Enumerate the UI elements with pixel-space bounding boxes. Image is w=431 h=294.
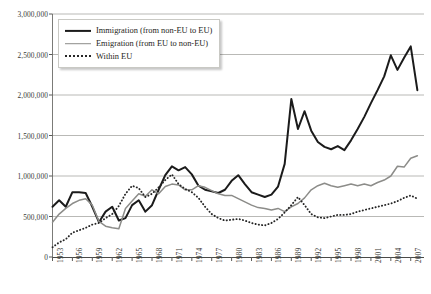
x-tick-label: 1974 [195, 248, 204, 263]
legend-item-within-eu: Within EU [65, 50, 212, 63]
migration-line-chart: 0500,0001,000,0001,500,0002,000,0002,500… [0, 0, 431, 294]
legend-label-immigration: Immigration (from non-EU to EU) [96, 25, 212, 36]
x-tick-label: 1956 [75, 248, 84, 263]
x-tick-label: 1986 [274, 248, 283, 263]
x-tick-label: 1968 [155, 248, 164, 263]
x-tick-label: 1965 [135, 248, 144, 263]
legend-item-immigration: Immigration (from non-EU to EU) [65, 24, 212, 37]
legend-swatch-within-eu-icon [65, 52, 91, 62]
x-tick-label: 1977 [215, 248, 224, 263]
x-tick-label: 1983 [255, 248, 264, 263]
x-tick-label: 1998 [354, 248, 363, 263]
legend-swatch-immigration-icon [65, 26, 91, 36]
x-tick-label: 1953 [56, 248, 65, 263]
legend-label-emigration: Emigration (from EU to non-EU) [96, 38, 208, 49]
x-tick-label: 2001 [374, 248, 383, 263]
x-tick-label: 1980 [235, 248, 244, 263]
x-tick-label: 1989 [294, 248, 303, 263]
x-tick-label: 2004 [394, 248, 403, 263]
x-tick-label: 1995 [334, 248, 343, 263]
x-tick-label: 1971 [175, 248, 184, 263]
legend-label-within-eu: Within EU [96, 51, 132, 62]
x-tick-label: 1959 [95, 248, 104, 263]
chart-legend: Immigration (from non-EU to EU) Emigrati… [58, 19, 220, 68]
legend-item-emigration: Emigration (from EU to non-EU) [65, 37, 212, 50]
x-tick-label: 1962 [115, 248, 124, 263]
x-tick-label: 1992 [314, 248, 323, 263]
x-tick-label: 2007 [414, 248, 423, 263]
legend-swatch-emigration-icon [65, 39, 91, 49]
